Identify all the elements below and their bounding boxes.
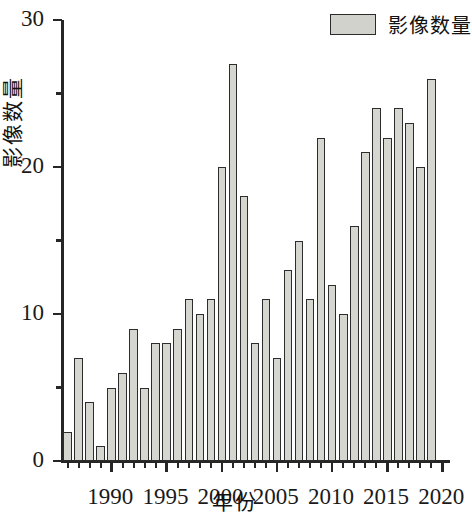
bar-1993 xyxy=(140,388,149,462)
y-minor-tick-25 xyxy=(56,92,62,94)
bar-2005 xyxy=(273,358,282,461)
bar-2018 xyxy=(416,167,425,461)
y-tick-20: 20 xyxy=(53,166,62,168)
y-tick-label-10: 10 xyxy=(21,301,44,324)
x-minor-tick-1999 xyxy=(210,461,212,468)
x-minor-tick-2001 xyxy=(232,461,234,468)
y-tick-label-0: 0 xyxy=(33,448,45,471)
x-tick-2010: 2010 xyxy=(331,461,334,472)
y-tick-0: 0 xyxy=(53,460,62,462)
bar-2009 xyxy=(317,138,326,461)
x-minor-tick-2007 xyxy=(298,461,300,468)
bar-1998 xyxy=(196,314,205,461)
bar-2002 xyxy=(240,196,249,461)
x-minor-tick-1987 xyxy=(78,461,80,468)
x-minor-tick-1996 xyxy=(177,461,179,468)
bar-1988 xyxy=(85,402,94,461)
y-minor-tick-5 xyxy=(56,386,62,388)
x-minor-tick-1994 xyxy=(155,461,157,468)
y-tick-label-20: 20 xyxy=(21,154,44,177)
x-minor-tick-1997 xyxy=(188,461,190,468)
x-tick-2020: 2020 xyxy=(441,461,444,472)
x-tick-1990: 1990 xyxy=(110,461,113,472)
bar-2000 xyxy=(218,167,227,461)
y-tick-30: 30 xyxy=(53,19,62,21)
bar-1991 xyxy=(118,373,127,461)
bar-2007 xyxy=(295,241,304,462)
x-minor-tick-2012 xyxy=(353,461,355,468)
bar-2008 xyxy=(306,299,315,461)
bar-2003 xyxy=(251,343,260,461)
plot-area: 0102030 1990199520002005201020152020 xyxy=(62,20,448,461)
bar-1996 xyxy=(173,329,182,461)
bar-2004 xyxy=(262,299,271,461)
x-minor-tick-2008 xyxy=(309,461,311,468)
x-tick-2005: 2005 xyxy=(276,461,279,472)
y-tick-label-30: 30 xyxy=(21,7,44,30)
bar-1994 xyxy=(151,343,160,461)
x-minor-tick-2004 xyxy=(265,461,267,468)
x-minor-tick-2017 xyxy=(408,461,410,468)
bar-1999 xyxy=(207,299,216,461)
bar-2017 xyxy=(405,123,414,461)
x-minor-tick-1986 xyxy=(67,461,69,468)
bar-2011 xyxy=(339,314,348,461)
bar-2015 xyxy=(383,138,392,461)
x-minor-tick-1993 xyxy=(144,461,146,468)
x-minor-tick-2013 xyxy=(364,461,366,468)
y-minor-tick-15 xyxy=(56,239,62,241)
x-minor-tick-1992 xyxy=(133,461,135,468)
bar-2012 xyxy=(350,226,359,461)
x-tick-2015: 2015 xyxy=(386,461,389,472)
x-minor-tick-2018 xyxy=(419,461,421,468)
x-minor-tick-1989 xyxy=(100,461,102,468)
bar-2016 xyxy=(394,108,403,461)
bar-1989 xyxy=(96,446,105,461)
bar-2014 xyxy=(372,108,381,461)
bar-1992 xyxy=(129,329,138,461)
x-minor-tick-2011 xyxy=(342,461,344,468)
x-minor-tick-2014 xyxy=(375,461,377,468)
bar-1997 xyxy=(185,299,194,461)
bar-2019 xyxy=(427,79,436,461)
x-minor-tick-2003 xyxy=(254,461,256,468)
bar-2001 xyxy=(229,64,238,461)
y-tick-10: 10 xyxy=(53,313,62,315)
x-minor-tick-2009 xyxy=(320,461,322,468)
x-minor-tick-1988 xyxy=(89,461,91,468)
x-tick-1995: 1995 xyxy=(165,461,168,472)
x-minor-tick-1998 xyxy=(199,461,201,468)
x-axis-title: 年份 xyxy=(0,485,469,515)
bar-1990 xyxy=(107,388,116,462)
bar-1987 xyxy=(74,358,83,461)
x-minor-tick-2006 xyxy=(287,461,289,468)
x-minor-tick-1991 xyxy=(122,461,124,468)
x-minor-tick-2016 xyxy=(397,461,399,468)
bar-1986 xyxy=(63,432,72,461)
x-tick-2000: 2000 xyxy=(221,461,224,472)
bar-2013 xyxy=(361,152,370,461)
x-minor-tick-2002 xyxy=(243,461,245,468)
x-minor-tick-2019 xyxy=(430,461,432,468)
bar-1995 xyxy=(162,343,171,461)
bar-2010 xyxy=(328,285,337,461)
bar-2006 xyxy=(284,270,293,461)
